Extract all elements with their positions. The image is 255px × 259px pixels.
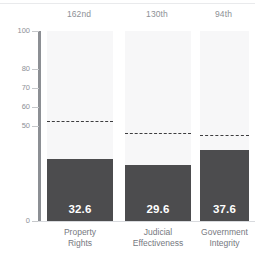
rank-label-1: 130th: [124, 9, 190, 19]
bar-fill-1[interactable]: 29.6: [125, 165, 191, 221]
y-tick-50: [32, 126, 39, 127]
bar-value-0: 32.6: [47, 203, 113, 215]
rank-label-2: 94th: [199, 9, 248, 19]
bar-chart: 162nd 130th 94th 100807060500 32.6 29.6 …: [0, 0, 255, 259]
y-tick-label-100: 100: [0, 27, 30, 35]
y-tick-label-50: 50: [0, 122, 30, 130]
y-tick-100: [32, 31, 39, 32]
category-label-0: Property Rights: [38, 227, 122, 248]
y-tick-80: [32, 69, 39, 70]
bar-group-2: 37.6: [200, 31, 249, 221]
category-label-2-line-0: Government: [191, 227, 255, 238]
rank-label-row: 162nd 130th 94th: [40, 9, 255, 23]
y-tick-70: [32, 88, 39, 89]
category-label-1-line-1: Effectiveness: [116, 238, 200, 249]
category-label-2-line-1: Integrity: [191, 238, 255, 249]
category-label-1-line-0: Judicial: [116, 227, 200, 238]
bar-fill-0[interactable]: 32.6: [47, 159, 113, 221]
bar-value-2: 37.6: [200, 203, 249, 215]
x-axis-baseline: [38, 221, 255, 222]
category-label-1: Judicial Effectiveness: [116, 227, 200, 248]
y-tick-60: [32, 107, 39, 108]
y-tick-label-0: 0: [0, 217, 30, 225]
bar-group-0: 32.6: [47, 31, 113, 221]
y-tick-label-60: 60: [0, 103, 30, 111]
plot-area: 32.6 29.6 37.6: [41, 31, 255, 221]
category-label-row: Property Rights Judicial Effectiveness G…: [41, 227, 255, 257]
y-tick-label-70: 70: [0, 84, 30, 92]
bar-group-1: 29.6: [125, 31, 191, 221]
category-label-0-line-1: Rights: [38, 238, 122, 249]
reference-line-2: [200, 135, 249, 136]
reference-line-0: [47, 121, 113, 122]
bar-fill-2[interactable]: 37.6: [200, 150, 249, 221]
reference-line-1: [125, 133, 191, 134]
rank-label-0: 162nd: [46, 9, 112, 19]
top-divider: [0, 3, 255, 4]
y-tick-label-80: 80: [0, 65, 30, 73]
category-label-2: Government Integrity: [191, 227, 255, 248]
bar-value-1: 29.6: [125, 203, 191, 215]
category-label-0-line-0: Property: [38, 227, 122, 238]
